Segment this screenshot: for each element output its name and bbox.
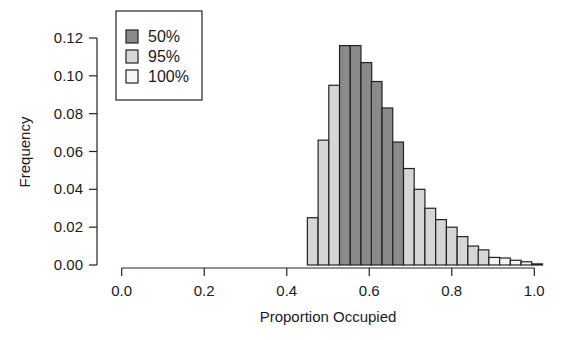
x-tick-label: 0.8	[441, 282, 462, 299]
x-tick-label: 1.0	[524, 282, 545, 299]
histogram-bar	[350, 46, 361, 265]
y-tick-label: 0.12	[54, 29, 83, 46]
legend: 50%95%100%	[116, 11, 202, 100]
histogram-bar	[478, 250, 489, 265]
histogram-bar	[361, 63, 372, 265]
histogram-bar	[307, 218, 318, 265]
legend-label: 100%	[148, 68, 189, 85]
y-tick-label: 0.04	[54, 180, 83, 197]
histogram-bar	[457, 237, 468, 265]
x-tick-label: 0.4	[276, 282, 297, 299]
histogram-bar	[425, 208, 436, 265]
legend-label: 50%	[148, 28, 180, 45]
histogram-bar	[340, 46, 351, 265]
x-tick-label: 0.2	[194, 282, 215, 299]
histogram-bar	[318, 140, 329, 265]
histogram-bar	[436, 220, 447, 265]
histogram-bar	[468, 246, 479, 265]
histogram-bar	[489, 257, 500, 265]
histogram-chart: 0.000.020.040.060.080.100.12 0.00.20.40.…	[0, 0, 563, 340]
histogram-bar	[510, 260, 521, 265]
y-axis-title: Frequency	[16, 116, 33, 187]
histogram-bar	[500, 258, 511, 265]
histogram-bar	[329, 85, 340, 265]
histogram-bar	[414, 189, 425, 265]
legend-swatch	[126, 70, 138, 83]
y-tick-label: 0.10	[54, 67, 83, 84]
legend-swatch	[126, 30, 138, 43]
y-axis: 0.000.020.040.060.080.100.12	[54, 29, 97, 273]
y-tick-label: 0.06	[54, 143, 83, 160]
histogram-bar	[393, 142, 404, 265]
x-axis: 0.00.20.40.60.81.0	[111, 268, 544, 299]
y-tick-label: 0.02	[54, 218, 83, 235]
histogram-bar	[521, 262, 532, 265]
bars-group	[307, 46, 542, 265]
legend-label: 95%	[148, 48, 180, 65]
legend-swatch	[126, 50, 138, 63]
x-tick-label: 0.6	[359, 282, 380, 299]
x-axis-title: Proportion Occupied	[260, 308, 397, 325]
histogram-bar	[371, 82, 382, 265]
histogram-bar	[446, 227, 457, 265]
x-tick-label: 0.0	[111, 282, 132, 299]
histogram-bar	[382, 108, 393, 265]
y-tick-label: 0.00	[54, 256, 83, 273]
histogram-bar	[532, 264, 543, 265]
y-tick-label: 0.08	[54, 105, 83, 122]
histogram-bar	[404, 169, 415, 265]
